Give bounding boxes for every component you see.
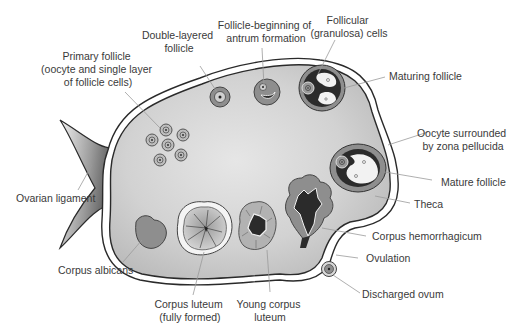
- label-discharged-ovum: Discharged ovum: [362, 288, 444, 300]
- label-maturing-follicle: Maturing follicle: [389, 70, 462, 82]
- label-primary-follicle: Primary follicle (oocyte and single laye…: [41, 50, 155, 88]
- label-theca: Theca: [414, 198, 443, 210]
- label-corpus-hemorrhagicum: Corpus hemorrhagicum: [372, 230, 482, 242]
- mature-follicle: [330, 144, 386, 192]
- label-double-layered-follicle: Double-layered follicle: [142, 29, 216, 54]
- label-granulosa-cells: Follicular (granulosa) cells: [310, 14, 387, 39]
- discharged-ovum: [322, 262, 337, 277]
- antrum-forming-follicle: [254, 79, 280, 105]
- label-antrum-formation: Follicle-beginning of antrum formation: [218, 19, 314, 44]
- label-zona-pellucida: Oocyte surrounded by zona pellucida: [417, 127, 509, 152]
- label-corpus-luteum-full: Corpus luteum (fully formed): [154, 298, 225, 323]
- maturing-follicle: [299, 65, 345, 111]
- ovary-diagram: Primary follicle (oocyte and single laye…: [0, 0, 513, 331]
- label-young-corpus-luteum: Young corpus luteum: [237, 298, 304, 323]
- label-corpus-albicans: Corpus albicans: [58, 264, 133, 276]
- label-mature-follicle: Mature follicle: [441, 176, 506, 188]
- double-layered-follicle: [210, 87, 230, 107]
- label-ovarian-ligament: Ovarian ligament: [16, 192, 95, 204]
- label-ovulation: Ovulation: [366, 252, 411, 264]
